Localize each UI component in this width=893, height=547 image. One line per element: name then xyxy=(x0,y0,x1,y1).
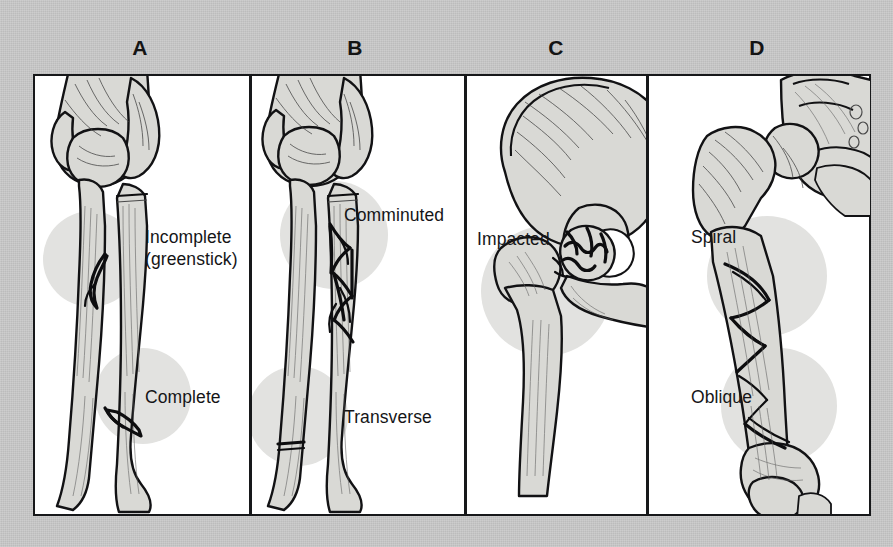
label-oblique-line1: Oblique xyxy=(691,386,752,408)
label-oblique: Oblique xyxy=(691,386,752,408)
panel-letter-a: A xyxy=(120,36,160,60)
panel-a: Incomplete (greenstick) Complete xyxy=(35,76,249,514)
panel-letter-b: B xyxy=(335,36,375,60)
label-incomplete-line1: Incomplete xyxy=(145,226,238,248)
panel-letter-d: D xyxy=(737,36,777,60)
label-spiral-line1: Spiral xyxy=(691,226,736,248)
femur-d xyxy=(649,76,870,514)
label-complete: Complete xyxy=(145,386,221,408)
label-impacted: Impacted xyxy=(477,228,550,250)
label-complete-line1: Complete xyxy=(145,386,221,408)
label-impacted-line1: Impacted xyxy=(477,228,550,250)
panel-d: Spiral Oblique xyxy=(649,76,870,514)
label-transverse: Transverse xyxy=(344,406,432,428)
panel-b: Comminuted Transverse xyxy=(252,76,464,514)
forearm-bones-a xyxy=(35,76,249,514)
label-incomplete: Incomplete (greenstick) xyxy=(145,226,238,271)
figure-plate: Incomplete (greenstick) Complete xyxy=(33,74,871,516)
hip-pelvis-femur-c xyxy=(467,76,646,514)
panel-letter-c: C xyxy=(536,36,576,60)
label-incomplete-line2: (greenstick) xyxy=(145,248,238,270)
label-comminuted-line1: Comminuted xyxy=(344,204,444,226)
panel-c: Impacted xyxy=(467,76,646,514)
forearm-bones-b xyxy=(252,76,464,514)
fracture-types-figure: A B C D xyxy=(0,0,893,547)
label-comminuted: Comminuted xyxy=(344,204,444,226)
label-spiral: Spiral xyxy=(691,226,736,248)
label-transverse-line1: Transverse xyxy=(344,406,432,428)
